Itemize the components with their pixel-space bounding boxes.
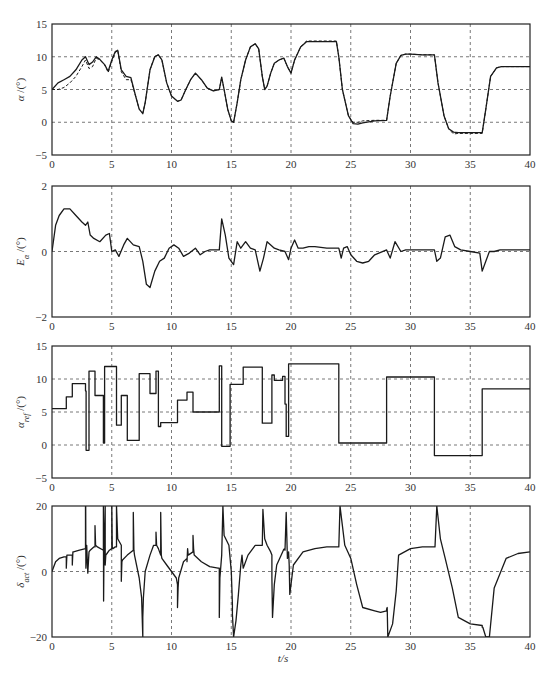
y-tick-label: −5 <box>35 472 47 484</box>
x-tick-label: 15 <box>226 158 238 170</box>
x-tick-label: 5 <box>109 481 115 493</box>
x-tick-label: 10 <box>166 640 178 652</box>
y-tick-label: −20 <box>30 631 48 643</box>
x-tick-label: 35 <box>465 158 477 170</box>
x-tick-label: 0 <box>49 481 55 493</box>
y-tick-label: 20 <box>36 500 48 512</box>
y-tick-label: 5 <box>42 406 48 418</box>
x-tick-label: 15 <box>226 320 238 332</box>
x-tick-label: 30 <box>405 640 417 652</box>
x-tick-label: 40 <box>525 320 537 332</box>
panel-error: 0510152025303540−202Eα /(°) <box>14 180 536 332</box>
y-axis-label: Eα /(°) <box>14 237 31 267</box>
y-tick-label: 0 <box>42 566 48 578</box>
x-tick-label: 0 <box>49 320 55 332</box>
y-tick-label: 15 <box>36 340 48 352</box>
y-tick-label: 0 <box>42 116 48 128</box>
x-tick-label: 25 <box>345 481 357 493</box>
x-tick-label: 35 <box>465 481 477 493</box>
y-tick-label: 10 <box>36 51 48 63</box>
x-tick-label: 25 <box>345 640 357 652</box>
series-tracking-error <box>52 209 530 288</box>
x-tick-label: 35 <box>465 640 477 652</box>
figure-canvas: 0510152025303540−5051015α /(°) 051015202… <box>0 0 554 676</box>
y-tick-label: 10 <box>36 373 48 385</box>
x-tick-label: 20 <box>286 158 298 170</box>
x-tick-label: 5 <box>109 158 115 170</box>
x-tick-label: 5 <box>109 320 115 332</box>
panel-alpha-ref: 0510152025303540−5051015αref /(°) <box>14 340 536 493</box>
y-tick-label: 5 <box>42 84 48 96</box>
x-tick-label: 20 <box>286 481 298 493</box>
x-tick-label: 35 <box>465 320 477 332</box>
x-tick-label: 25 <box>345 320 357 332</box>
x-tick-label: 30 <box>405 320 417 332</box>
x-tick-label: 30 <box>405 158 417 170</box>
x-tick-label: 0 <box>49 158 55 170</box>
x-tick-label: 40 <box>525 481 537 493</box>
x-tick-label: 20 <box>286 640 298 652</box>
x-tick-label: 10 <box>166 158 178 170</box>
x-tick-label: 30 <box>405 481 417 493</box>
x-tick-label: 5 <box>109 640 115 652</box>
y-tick-label: 0 <box>42 246 48 258</box>
x-tick-label: 10 <box>166 320 178 332</box>
x-tick-label: 40 <box>525 640 537 652</box>
y-axis-label: δact /(°) <box>14 555 31 588</box>
y-tick-label: −2 <box>35 311 47 323</box>
y-axis-label: α /(°) <box>14 78 27 102</box>
x-tick-label: 15 <box>226 481 238 493</box>
x-tick-label: 15 <box>226 640 238 652</box>
x-tick-label: 20 <box>286 320 298 332</box>
x-tick-label: 25 <box>345 158 357 170</box>
y-tick-label: −5 <box>35 149 47 161</box>
x-axis-label: t/s <box>278 652 288 664</box>
y-tick-label: 15 <box>36 18 48 30</box>
panel-delta: 0510152025303540−20020δact /(°) <box>14 500 536 652</box>
y-tick-label: 2 <box>42 180 48 192</box>
y-tick-label: 0 <box>42 439 48 451</box>
y-axis-label: αref /(°) <box>14 396 31 428</box>
x-tick-label: 10 <box>166 481 178 493</box>
x-tick-label: 40 <box>525 158 537 170</box>
x-tick-label: 0 <box>49 640 55 652</box>
panel-alpha: 0510152025303540−5051015α /(°) <box>14 18 536 170</box>
